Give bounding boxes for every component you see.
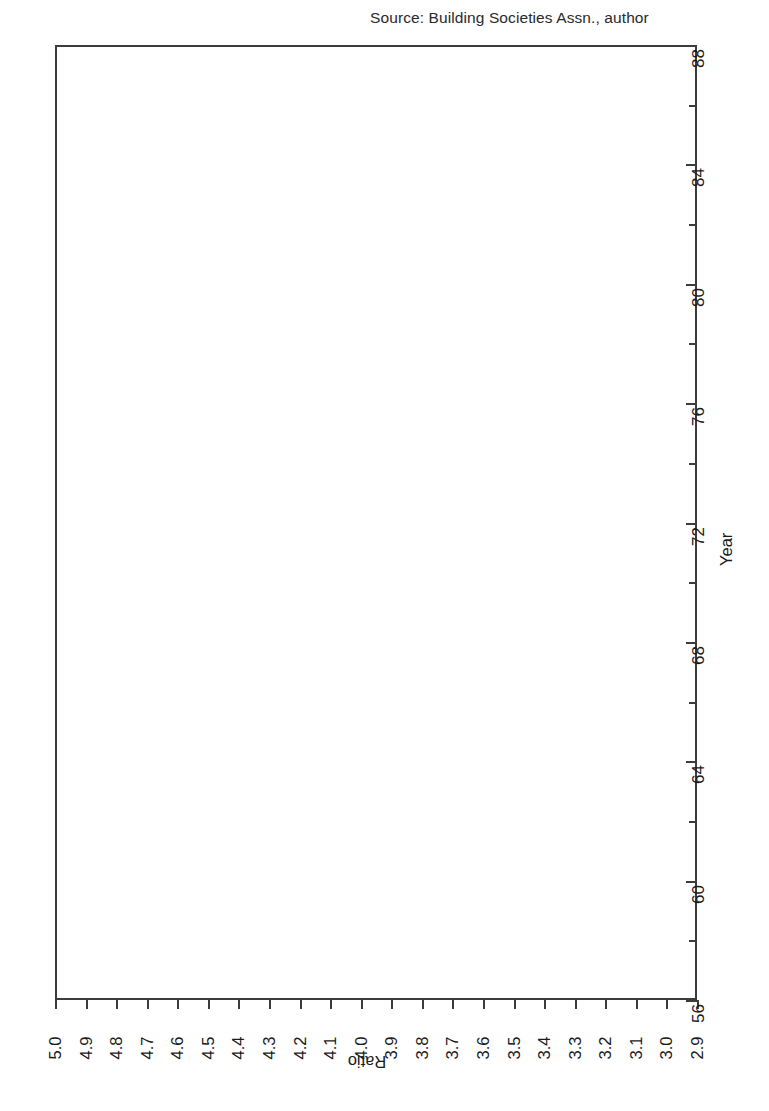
year-tick-label: 88: [689, 22, 709, 68]
ratio-tick-label: 4.5: [200, 1021, 216, 1075]
ratio-tick-label: 3.3: [567, 1021, 583, 1075]
year-tick-label: 84: [689, 141, 709, 187]
house-price-earnings-ratio-chart: Source: Building Societies Assn., author…: [0, 0, 769, 1111]
plot-area: [55, 45, 697, 1000]
ratio-tick: [422, 1000, 424, 1009]
ratio-tick-label: 4.8: [108, 1021, 124, 1075]
ratio-tick-label: 3.5: [506, 1021, 522, 1075]
ratio-tick-label: 2.9: [689, 1021, 705, 1075]
ratio-tick: [208, 1000, 210, 1009]
ratio-tick: [238, 1000, 240, 1009]
ratio-tick: [452, 1000, 454, 1009]
ratio-tick: [269, 1000, 271, 1009]
ratio-tick-label: 4.9: [78, 1021, 94, 1075]
ratio-tick-label: 4.3: [261, 1021, 277, 1075]
ratio-tick: [544, 1000, 546, 1009]
year-tick-minor: [689, 224, 697, 226]
year-tick-label: 56: [689, 977, 709, 1023]
ratio-tick: [116, 1000, 118, 1009]
ratio-tick: [147, 1000, 149, 1009]
ratio-tick: [86, 1000, 88, 1009]
ratio-tick: [483, 1000, 485, 1009]
source-note: Source: Building Societies Assn., author: [370, 9, 720, 27]
ratio-tick: [177, 1000, 179, 1009]
year-tick-minor: [689, 582, 697, 584]
year-tick-label: 76: [689, 380, 709, 426]
ratio-tick-label: 3.6: [475, 1021, 491, 1075]
year-tick-label: 80: [689, 261, 709, 307]
year-tick-label: 64: [689, 738, 709, 784]
ratio-tick-label: 4.6: [169, 1021, 185, 1075]
ratio-tick-label: 3.1: [628, 1021, 644, 1075]
ratio-axis-title: Ratio: [322, 1052, 412, 1072]
ratio-tick-label: 5.0: [47, 1021, 63, 1075]
ratio-tick: [300, 1000, 302, 1009]
ratio-tick: [514, 1000, 516, 1009]
ratio-tick-label: 3.8: [414, 1021, 430, 1075]
year-tick-minor: [689, 463, 697, 465]
ratio-tick-label: 4.4: [230, 1021, 246, 1075]
year-tick-minor: [689, 940, 697, 942]
year-tick-minor: [689, 702, 697, 704]
year-tick-label: 72: [689, 500, 709, 546]
ratio-tick: [636, 1000, 638, 1009]
ratio-tick: [330, 1000, 332, 1009]
year-tick-label: 68: [689, 619, 709, 665]
data-line-series: [57, 47, 699, 1002]
ratio-tick-label: 4.2: [292, 1021, 308, 1075]
year-axis-title: Year: [716, 496, 736, 566]
year-tick-minor: [689, 105, 697, 107]
ratio-tick-label: 4.7: [139, 1021, 155, 1075]
year-tick-label: 60: [689, 858, 709, 904]
ratio-tick-label: 3.4: [536, 1021, 552, 1075]
ratio-tick: [391, 1000, 393, 1009]
ratio-tick-label: 3.7: [444, 1021, 460, 1075]
ratio-tick: [666, 1000, 668, 1009]
ratio-tick-label: 3.2: [597, 1021, 613, 1075]
ratio-tick: [605, 1000, 607, 1009]
ratio-tick: [575, 1000, 577, 1009]
year-tick-minor: [689, 343, 697, 345]
ratio-tick-label: 3.0: [658, 1021, 674, 1075]
year-tick-minor: [689, 821, 697, 823]
ratio-tick: [55, 1000, 57, 1009]
ratio-tick: [361, 1000, 363, 1009]
